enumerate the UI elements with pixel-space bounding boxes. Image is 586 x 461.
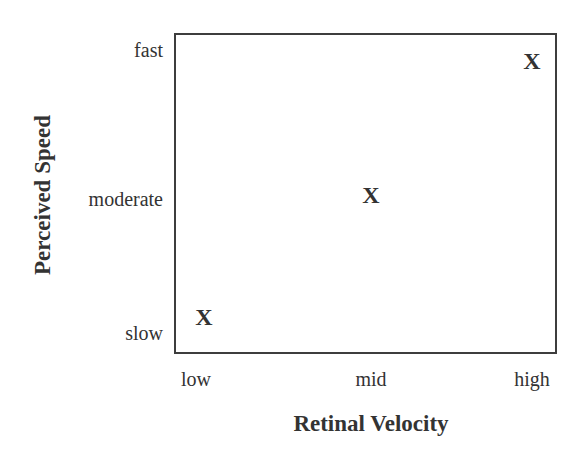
y-tick-moderate: moderate (89, 189, 163, 209)
y-tick-fast: fast (134, 40, 163, 60)
x-tick-low: low (181, 369, 211, 389)
data-point-high-fast: X (523, 49, 540, 73)
y-axis-title: Perceived Speed (30, 115, 56, 275)
data-point-mid-moderate: X (362, 183, 379, 207)
x-tick-high: high (514, 369, 550, 389)
x-axis-title: Retinal Velocity (293, 411, 448, 437)
x-tick-mid: mid (355, 369, 386, 389)
y-tick-slow: slow (125, 323, 163, 343)
data-point-low-slow: X (195, 305, 212, 329)
